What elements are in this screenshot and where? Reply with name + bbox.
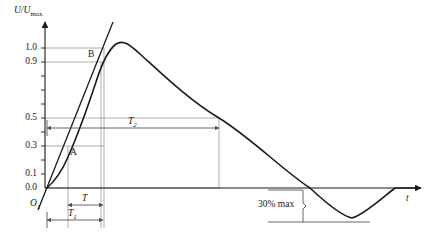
waveform-canvas (0, 0, 430, 241)
y-tick-label-0p9: 0.9 (15, 57, 37, 67)
virtual-origin-label-main: O (30, 198, 37, 208)
gridlines (45, 48, 219, 146)
virtual-origin-label: O1 (30, 199, 40, 211)
y-tick-label-1p0: 1.0 (15, 43, 37, 53)
y-axis-ticks (41, 48, 45, 174)
y-tick-label-0p5: 0.5 (15, 113, 37, 123)
y-tick-label-0p1: 0.1 (15, 169, 37, 179)
undershoot-annotation-label: 30% max (258, 200, 294, 210)
y-axis-title-subscript: max (30, 10, 42, 18)
interval-label-t2-subscript: 2 (133, 121, 137, 129)
y-axis-title-main: U/U (14, 5, 30, 15)
impulse-waveform-curve (47, 42, 420, 218)
virtual-origin-label-subscript: 1 (37, 203, 41, 211)
point-label-b: B (88, 50, 94, 60)
y-axis-title: U/Umax (14, 6, 42, 18)
interval-label-t-main: T (82, 193, 87, 203)
interval-label-t: T (82, 194, 87, 204)
interval-label-t1: T1 (68, 209, 77, 221)
y-tick-label-0p0: 0.0 (15, 183, 37, 193)
point-label-a: A (70, 148, 77, 158)
impulse-waveform-figure: 1.0 0.9 0.5 0.3 0.1 0.0 U/Umax t O1 A B … (0, 0, 430, 241)
interval-label-t2: T2 (128, 117, 137, 129)
y-tick-label-0p3: 0.3 (15, 141, 37, 151)
projection-lines (45, 48, 219, 228)
interval-label-t1-subscript: 1 (73, 213, 77, 221)
x-axis-title: t (406, 194, 409, 204)
reference-tangent-line (38, 22, 113, 210)
